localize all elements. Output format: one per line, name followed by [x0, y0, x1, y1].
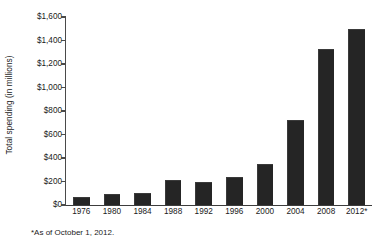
- bar-chart-figure: Total spending (in millions) $0$200$400$…: [0, 0, 378, 250]
- bar: [348, 29, 365, 205]
- chart-footnote: *As of October 1, 2012.: [31, 228, 114, 237]
- bar: [257, 164, 274, 205]
- x-axis-tick-label: 1992: [188, 207, 219, 216]
- bar: [134, 193, 151, 205]
- x-axis-tick-label: 1988: [158, 207, 189, 216]
- y-axis-tick-mark: [61, 134, 66, 135]
- x-axis-tick-label: 2012*: [341, 207, 372, 216]
- plot-area: [66, 17, 372, 205]
- y-axis-tick-mark: [61, 157, 66, 158]
- y-axis-tick-mark: [61, 16, 66, 17]
- x-axis-tick-labels: 1976198019841988199219962000200420082012…: [66, 207, 372, 221]
- y-axis-title-label: Total spending (in millions): [4, 55, 14, 154]
- bar: [165, 180, 182, 205]
- y-axis-tick-mark: [61, 87, 66, 88]
- y-axis-tick-labels: $0$200$400$600$800$1,000$1,200$1,400$1,6…: [16, 0, 62, 212]
- y-axis-tick-mark: [61, 110, 66, 111]
- bar: [287, 120, 304, 205]
- y-axis-tick-label: $200: [44, 177, 62, 185]
- x-axis-tick-label: 2004: [280, 207, 311, 216]
- y-axis-tick-label: $600: [44, 130, 62, 138]
- x-axis-tick-label: 1996: [219, 207, 250, 216]
- y-axis-tick-mark: [61, 63, 66, 64]
- y-axis-tick-mark: [61, 40, 66, 41]
- x-axis-tick-label: 2008: [311, 207, 342, 216]
- y-axis-tick-label: $1,000: [37, 83, 62, 91]
- y-axis-tick-label: $400: [44, 154, 62, 162]
- bar: [195, 182, 212, 205]
- y-axis-tick-mark: [61, 204, 66, 205]
- x-axis-tick-label: 2000: [250, 207, 281, 216]
- y-axis-tick-label: $800: [44, 107, 62, 115]
- y-axis-tick-mark: [61, 181, 66, 182]
- x-axis-tick-label: 1976: [66, 207, 97, 216]
- bar: [226, 177, 243, 205]
- y-axis-tick-label: $1,600: [37, 13, 62, 21]
- bar: [104, 194, 121, 205]
- y-axis-tick-label: $1,200: [37, 60, 62, 68]
- bar: [73, 197, 90, 205]
- x-axis-tick-label: 1980: [97, 207, 128, 216]
- bar: [318, 49, 335, 205]
- x-axis-tick-label: 1984: [127, 207, 158, 216]
- y-axis-tick-label: $1,400: [37, 36, 62, 44]
